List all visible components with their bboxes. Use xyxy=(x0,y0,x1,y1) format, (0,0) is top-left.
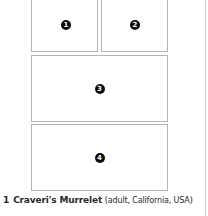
figure-caption: 1Craveri's Murrelet (adult, California, … xyxy=(3,194,193,207)
caption-species-name: Craveri's Murrelet xyxy=(13,195,102,205)
panel-number-marker-4: 4 xyxy=(95,153,105,163)
photo-panel-2: 2 xyxy=(101,0,168,52)
caption-number: 1 xyxy=(3,195,9,205)
panel-number-marker-3: 3 xyxy=(95,84,105,94)
photo-panel-4: 4 xyxy=(31,124,168,191)
page-divider-line xyxy=(205,0,206,216)
panel-number-marker-1: 1 xyxy=(61,20,71,30)
photo-panel-3: 3 xyxy=(31,55,168,122)
caption-detail: (adult, California, USA) xyxy=(105,196,193,205)
photo-panel-1: 1 xyxy=(31,0,98,52)
panel-number-marker-2: 2 xyxy=(130,20,140,30)
